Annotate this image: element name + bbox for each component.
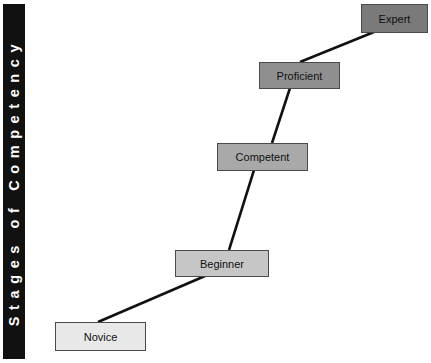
connector-beginner-competent <box>229 170 254 250</box>
stage-label: Novice <box>84 331 118 343</box>
stage-box-expert: Expert <box>361 4 428 33</box>
connector-proficient-expert <box>300 32 374 62</box>
stage-box-novice: Novice <box>55 322 146 351</box>
stage-label: Beginner <box>200 258 244 270</box>
stage-box-beginner: Beginner <box>175 250 269 277</box>
stage-label: Competent <box>236 151 290 163</box>
connector-competent-proficient <box>272 88 290 143</box>
connector-novice-beginner <box>98 276 205 322</box>
stage-label: Expert <box>379 13 411 25</box>
stage-box-proficient: Proficient <box>259 62 340 89</box>
connector-lines <box>0 0 431 363</box>
stage-box-competent: Competent <box>217 143 308 171</box>
stage-label: Proficient <box>277 70 323 82</box>
